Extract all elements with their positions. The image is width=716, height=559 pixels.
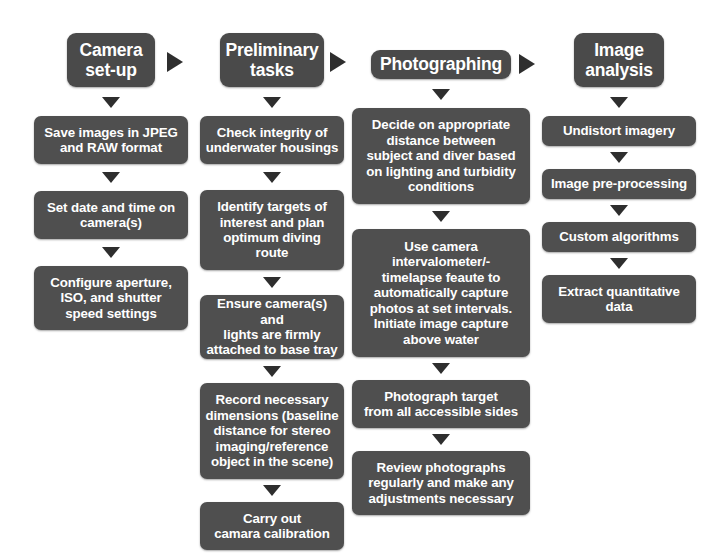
step-node[interactable]: Save images in JPEG and RAW format xyxy=(34,116,188,164)
step-node[interactable]: Undistort imagery xyxy=(542,116,696,146)
down-arrow-icon xyxy=(610,258,628,269)
step-node[interactable]: Carry out camara calibration xyxy=(200,502,344,550)
step-node[interactable]: Custom algorithms xyxy=(542,222,696,252)
down-arrow-icon xyxy=(432,89,450,100)
down-arrow-icon xyxy=(102,97,120,108)
flow-column-preliminary-tasks: Preliminary tasks Check integrity of und… xyxy=(200,0,344,550)
step-node[interactable]: Configure aperture, ISO, and shutter spe… xyxy=(34,266,188,330)
down-arrow-icon xyxy=(263,172,281,183)
flow-column-image-analysis: Image analysis Undistort imagery Image p… xyxy=(542,0,696,323)
down-arrow-icon xyxy=(263,97,281,108)
down-arrow-icon xyxy=(263,366,281,377)
flow-column-camera-set-up: Camera set-up Save images in JPEG and RA… xyxy=(34,0,188,330)
header-node-image-analysis[interactable]: Image analysis xyxy=(574,33,664,87)
down-arrow-icon xyxy=(432,434,450,445)
step-node[interactable]: Ensure camera(s) and lights are firmly a… xyxy=(200,295,344,359)
right-arrow-icon-stage-3-to-4 xyxy=(519,54,535,74)
right-arrow-icon-stage-1-to-2 xyxy=(167,52,183,72)
down-arrow-icon xyxy=(102,172,120,183)
down-arrow-icon xyxy=(432,211,450,222)
step-node[interactable]: Use camera intervalometer/- timelapse fe… xyxy=(352,229,530,357)
step-node[interactable]: Check integrity of underwater housings xyxy=(200,116,344,164)
step-node[interactable]: Image pre-processing xyxy=(542,169,696,199)
down-arrow-icon xyxy=(102,247,120,258)
header-node-preliminary-tasks[interactable]: Preliminary tasks xyxy=(220,33,324,87)
step-node[interactable]: Identify targets of interest and plan op… xyxy=(200,190,344,270)
header-node-photographing[interactable]: Photographing xyxy=(371,50,511,79)
down-arrow-icon xyxy=(263,277,281,288)
step-node[interactable]: Decide on appropriate distance between s… xyxy=(352,108,530,204)
down-arrow-icon xyxy=(263,485,281,496)
down-arrow-icon xyxy=(610,152,628,163)
down-arrow-icon xyxy=(610,205,628,216)
step-node[interactable]: Review photographs regularly and make an… xyxy=(352,451,530,515)
step-node[interactable]: Record necessary dimensions (baseline di… xyxy=(200,383,344,479)
down-arrow-icon xyxy=(610,97,628,108)
step-node[interactable]: Photograph target from all accessible si… xyxy=(352,380,530,428)
step-node[interactable]: Set date and time on camera(s) xyxy=(34,191,188,239)
step-node[interactable]: Extract quantitative data xyxy=(542,275,696,323)
down-arrow-icon xyxy=(432,363,450,374)
header-node-camera-set-up[interactable]: Camera set-up xyxy=(67,33,155,87)
flow-column-photographing: Photographing Decide on appropriate dist… xyxy=(352,0,530,515)
right-arrow-icon-stage-2-to-3 xyxy=(330,52,346,72)
flowchart: Camera set-up Save images in JPEG and RA… xyxy=(0,0,716,559)
